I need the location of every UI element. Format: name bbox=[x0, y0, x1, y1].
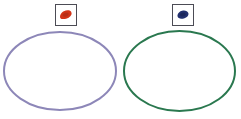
ovals-layer bbox=[0, 0, 241, 119]
right-oval[interactable] bbox=[124, 31, 235, 111]
left-oval[interactable] bbox=[4, 32, 116, 110]
sorting-activity-canvas bbox=[0, 0, 241, 119]
